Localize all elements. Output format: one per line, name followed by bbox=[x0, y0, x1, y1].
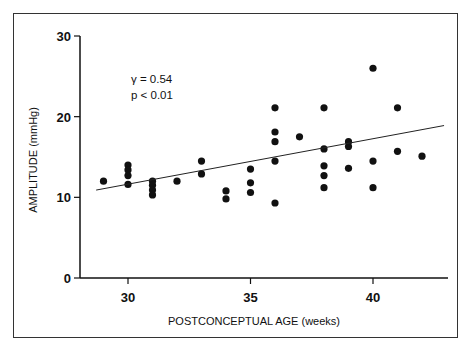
y-tick-label: 10 bbox=[57, 190, 71, 205]
data-point bbox=[369, 184, 376, 191]
data-point bbox=[271, 199, 278, 206]
data-point bbox=[247, 189, 254, 196]
data-point bbox=[394, 104, 401, 111]
correlation-coefficient: γ = 0.54 bbox=[131, 73, 173, 85]
data-point bbox=[369, 65, 376, 72]
p-value: p < 0.01 bbox=[131, 89, 173, 101]
data-point bbox=[296, 133, 303, 140]
y-tick-label: 20 bbox=[57, 110, 71, 125]
data-point bbox=[222, 195, 229, 202]
data-point bbox=[394, 148, 401, 155]
y-axis-title: AMPLITUDE (mmHg) bbox=[27, 107, 39, 213]
x-axis-title: POSTCONCEPTUAL AGE (weeks) bbox=[168, 315, 340, 327]
data-point bbox=[418, 153, 425, 160]
x-tick-label: 35 bbox=[243, 290, 257, 305]
data-point bbox=[222, 187, 229, 194]
data-point bbox=[173, 178, 180, 185]
data-point bbox=[100, 178, 107, 185]
data-point bbox=[320, 104, 327, 111]
data-point bbox=[149, 191, 156, 198]
data-points bbox=[100, 65, 426, 207]
scatter-plot: 0102030303540 γ = 0.54 p < 0.01 POSTCONC… bbox=[0, 0, 469, 359]
data-point bbox=[271, 138, 278, 145]
data-point bbox=[247, 166, 254, 173]
data-point bbox=[369, 157, 376, 164]
data-point bbox=[271, 157, 278, 164]
x-tick-label: 30 bbox=[121, 290, 135, 305]
y-tick-label: 30 bbox=[57, 29, 71, 44]
data-point bbox=[198, 157, 205, 164]
data-point bbox=[320, 162, 327, 169]
data-point bbox=[124, 172, 131, 179]
data-point bbox=[345, 165, 352, 172]
data-point bbox=[320, 172, 327, 179]
data-point bbox=[271, 128, 278, 135]
data-point bbox=[271, 104, 278, 111]
data-point bbox=[320, 145, 327, 152]
regression-line bbox=[96, 126, 444, 191]
data-point bbox=[247, 179, 254, 186]
x-tick-label: 40 bbox=[366, 290, 380, 305]
y-tick-label: 0 bbox=[64, 271, 71, 286]
data-point bbox=[320, 184, 327, 191]
